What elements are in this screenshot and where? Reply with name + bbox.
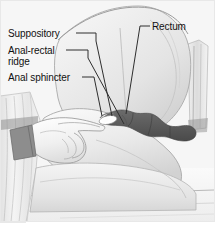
label-anal-rectal-ridge-line2: ridge: [8, 56, 55, 67]
illustration-figure: Suppository Anal-rectal ridge Anal sphin…: [0, 0, 221, 229]
glove-cuff: [10, 125, 36, 160]
label-rectum: Rectum: [152, 21, 186, 32]
drapery-right: [188, 40, 208, 130]
label-anal-sphincter: Anal sphincter: [8, 72, 70, 83]
label-anal-rectal-ridge: Anal-rectal ridge: [8, 45, 55, 67]
label-suppository: Suppository: [8, 28, 60, 39]
label-anal-rectal-ridge-line1: Anal-rectal: [8, 45, 55, 56]
